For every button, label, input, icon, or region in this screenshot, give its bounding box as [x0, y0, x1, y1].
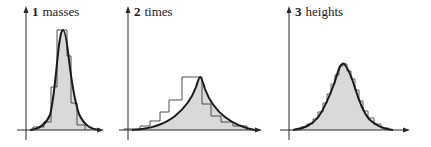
- heights-plot: [271, 0, 431, 147]
- times-label: times: [145, 4, 173, 19]
- masses-title: 1masses: [32, 5, 79, 19]
- times-plot: [110, 0, 270, 147]
- chart-panel-masses: 1masses: [0, 0, 120, 147]
- chart-panel-heights: 3heights: [271, 0, 431, 147]
- heights-title: 3heights: [295, 5, 343, 19]
- masses-y-arrow-icon: [24, 6, 29, 13]
- masses-number: 1: [32, 4, 39, 19]
- heights-x-arrow-icon: [403, 128, 410, 133]
- times-x-arrow-icon: [255, 128, 262, 133]
- times-number: 2: [134, 4, 141, 19]
- times-y-arrow-icon: [126, 6, 131, 13]
- masses-plot: [0, 0, 120, 147]
- heights-fill-area: [293, 64, 393, 131]
- masses-fill-area: [30, 30, 100, 130]
- times-title: 2times: [134, 5, 173, 19]
- chart-panel-times: 2times: [110, 0, 270, 147]
- heights-y-arrow-icon: [287, 6, 292, 13]
- masses-x-arrow-icon: [97, 128, 104, 133]
- heights-number: 3: [295, 4, 302, 19]
- masses-label: masses: [43, 4, 80, 19]
- heights-label: heights: [306, 4, 344, 19]
